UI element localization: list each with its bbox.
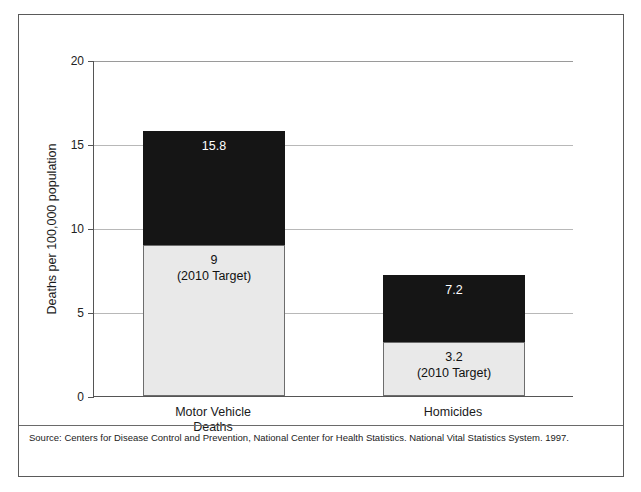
- y-axis-tick-mark: [88, 313, 94, 314]
- y-axis-tick-mark: [88, 397, 94, 398]
- bar-motor-vehicle-deaths[interactable]: 15.8 9 (2010 Target): [143, 131, 285, 396]
- x-axis-label-homicides: Homicides: [382, 405, 524, 420]
- bar-value-label: 15.8: [202, 139, 226, 154]
- bar-segment-2010-target[interactable]: 9 (2010 Target): [143, 245, 285, 396]
- bar-target-caption: (2010 Target): [417, 365, 491, 381]
- y-axis-tick-label: 15: [71, 138, 84, 152]
- bar-target-value-label: 3.2: [445, 350, 462, 365]
- plot-area: 20151050 15.8 9 (2010 Target) 7.2 3.2 (2…: [93, 61, 573, 397]
- x-axis-label-line1: Motor Vehicle: [142, 405, 284, 420]
- bar-value-label: 7.2: [445, 283, 462, 298]
- gridline: [94, 61, 573, 62]
- y-axis-tick-label: 5: [77, 306, 84, 320]
- y-axis-tick-label: 10: [71, 222, 84, 236]
- y-axis-title: Deaths per 100,000 population: [43, 61, 61, 397]
- y-axis-title-text: Deaths per 100,000 population: [45, 144, 59, 315]
- source-note: Source: Centers for Disease Control and …: [29, 432, 569, 443]
- bar-segment-2010-target[interactable]: 3.2 (2010 Target): [383, 342, 525, 396]
- y-axis-tick-mark: [88, 145, 94, 146]
- y-axis-tick-mark: [88, 229, 94, 230]
- y-axis-tick-label: 20: [71, 54, 84, 68]
- y-axis-tick-mark: [88, 61, 94, 62]
- chart-figure: Deaths per 100,000 population 20151050 1…: [18, 14, 624, 477]
- bar-homicides[interactable]: 7.2 3.2 (2010 Target): [383, 275, 525, 396]
- bar-target-caption: (2010 Target): [177, 268, 251, 284]
- source-divider: [19, 425, 623, 426]
- x-axis-label-motor-vehicle-deaths: Motor Vehicle Deaths: [142, 405, 284, 435]
- x-axis-label-line1: Homicides: [382, 405, 524, 420]
- bar-target-value-label: 9: [211, 253, 218, 268]
- y-axis-tick-label: 0: [77, 390, 84, 404]
